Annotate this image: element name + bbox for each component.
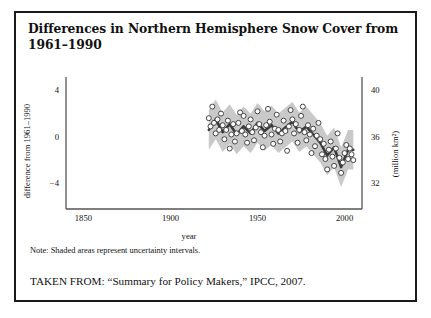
data-point (330, 154, 335, 159)
data-point (297, 127, 302, 132)
data-point (325, 167, 330, 172)
data-point (346, 157, 351, 162)
data-point (243, 132, 248, 137)
data-point (262, 133, 267, 138)
data-point (283, 129, 288, 134)
data-point (290, 117, 295, 122)
data-point (257, 122, 262, 127)
x-tick-label: 2000 (336, 213, 353, 223)
y-tick-label-right: 36 (371, 132, 380, 142)
data-point (337, 155, 342, 160)
data-point (250, 130, 255, 135)
data-point (340, 160, 345, 165)
data-point (219, 111, 224, 116)
data-point (318, 137, 323, 142)
data-point (333, 146, 338, 151)
data-point (326, 147, 331, 152)
data-point (271, 141, 276, 146)
data-point (217, 127, 222, 132)
data-point (339, 170, 344, 175)
data-point (266, 106, 271, 111)
data-point (299, 113, 304, 118)
data-point (323, 157, 328, 162)
snow-cover-chart: 40−44036321850190019502000 (16, 69, 419, 245)
x-axis-label: year (16, 231, 362, 241)
y-tick-label-left: 4 (55, 85, 60, 95)
y-tick-label-right: 32 (371, 178, 380, 188)
data-point (286, 124, 291, 129)
data-point (206, 116, 211, 121)
y-tick-label-left: 0 (55, 132, 59, 142)
data-point (304, 138, 309, 143)
data-point (313, 144, 318, 149)
figure-title: Differences in Northern Hemisphere Snow … (28, 21, 406, 53)
data-point (245, 140, 250, 145)
data-point (351, 158, 356, 163)
y-tick-label-left: −4 (50, 178, 60, 188)
data-point (236, 120, 241, 125)
x-tick-label: 1950 (249, 213, 266, 223)
data-point (295, 140, 300, 145)
figure-panel: Differences in Northern Hemisphere Snow … (14, 11, 417, 302)
data-point (285, 148, 290, 153)
data-point (269, 132, 274, 137)
data-point (232, 139, 237, 144)
y-tick-label-right: 40 (371, 85, 380, 95)
data-point (234, 131, 239, 136)
data-point (241, 113, 246, 118)
data-point (347, 146, 352, 151)
data-point (311, 126, 316, 131)
x-tick-label: 1900 (162, 213, 179, 223)
data-point (320, 152, 325, 157)
figure-source: TAKEN FROM: “Summary for Policy Makers,”… (30, 275, 306, 287)
data-point (231, 122, 236, 127)
data-point (292, 131, 297, 136)
data-point (274, 112, 279, 117)
data-point (281, 118, 286, 123)
data-point (300, 104, 305, 109)
data-point (255, 109, 260, 114)
data-point (302, 130, 307, 135)
data-point (248, 117, 253, 122)
data-point (309, 151, 314, 156)
data-point (224, 127, 229, 132)
data-point (332, 163, 337, 168)
data-point (349, 152, 354, 157)
data-point (321, 141, 326, 146)
data-point (225, 118, 230, 123)
data-point (267, 119, 272, 124)
chart-plot-area: difference from 1961–1990 (million km²) … (16, 69, 419, 245)
data-point (210, 104, 215, 109)
data-point (215, 117, 220, 122)
data-point (222, 137, 227, 142)
data-point (293, 122, 298, 127)
data-point (246, 124, 251, 129)
data-point (252, 138, 257, 143)
data-point (316, 120, 321, 125)
data-point (328, 139, 333, 144)
x-tick-label: 1850 (75, 213, 92, 223)
data-point (260, 145, 265, 150)
data-point (335, 131, 340, 136)
data-point (227, 146, 232, 151)
data-point (288, 108, 293, 113)
data-point (220, 123, 225, 128)
data-point (307, 132, 312, 137)
data-point (306, 123, 311, 128)
data-point (278, 139, 283, 144)
data-point (229, 132, 234, 137)
data-point (342, 151, 347, 156)
figure-note: Note: Shaded areas represent uncertainty… (30, 246, 200, 255)
